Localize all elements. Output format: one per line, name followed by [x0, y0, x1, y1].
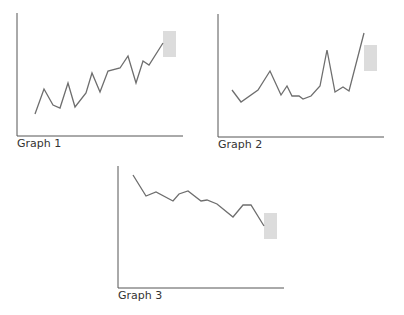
- graph-2: [218, 14, 384, 137]
- data-line: [232, 33, 364, 102]
- graph-3: [118, 166, 284, 288]
- axes: [118, 166, 284, 288]
- graph-2-label: Graph 2: [218, 138, 262, 151]
- highlight-box: [163, 31, 176, 57]
- graph-1: [17, 13, 183, 136]
- graph-1-label: Graph 1: [17, 137, 61, 150]
- data-line: [133, 175, 264, 226]
- data-line: [35, 43, 163, 114]
- charts-canvas: [0, 0, 404, 315]
- highlight-box: [264, 213, 277, 239]
- axes: [218, 14, 384, 137]
- axes: [17, 13, 183, 136]
- highlight-box: [364, 45, 377, 71]
- graph-3-label: Graph 3: [118, 289, 162, 302]
